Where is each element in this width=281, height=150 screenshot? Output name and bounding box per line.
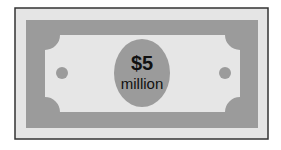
amount-label: $5	[131, 52, 153, 74]
unit-label: million	[121, 75, 164, 92]
banknote-illustration: $5 million	[0, 0, 281, 150]
left-dot-icon	[56, 67, 68, 79]
right-dot-icon	[219, 67, 231, 79]
